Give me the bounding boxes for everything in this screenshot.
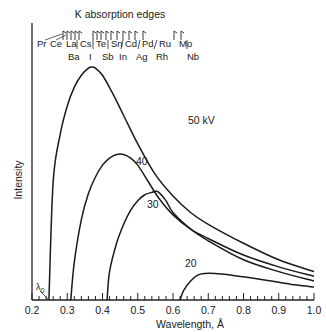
edge-element-label: Sn bbox=[111, 38, 123, 49]
edge-marker bbox=[106, 31, 109, 40]
edge-separator bbox=[138, 40, 140, 49]
curve-20-kv bbox=[180, 273, 314, 300]
edge-element-label: La bbox=[66, 38, 77, 49]
edge-element-label: Cd bbox=[125, 38, 137, 49]
chart-canvas: 0.20.30.40.50.60.70.80.91.0Wavelength, Å… bbox=[0, 0, 326, 332]
curve-label: 20 bbox=[185, 257, 197, 269]
x-tick-label: 0.7 bbox=[201, 304, 216, 316]
x-axis-label: Wavelength, Å bbox=[156, 318, 224, 330]
curves bbox=[49, 67, 314, 300]
edge-element-label: Sb bbox=[102, 51, 114, 62]
x-tick-label: 0.3 bbox=[60, 304, 75, 316]
edge-separator bbox=[154, 40, 157, 49]
edge-element-label: In bbox=[119, 51, 127, 62]
edge-element-label: Ba bbox=[68, 51, 80, 62]
curve-label: 50 kV bbox=[188, 114, 215, 126]
labels: 50 kV403020λ0K absorption edgesPrCeLaCsT… bbox=[36, 8, 215, 299]
y-axis-label: Intensity bbox=[12, 160, 24, 200]
edge-element-label: I bbox=[89, 51, 92, 62]
x-tick-label: 0.4 bbox=[95, 304, 110, 316]
x-tick-label: 0.8 bbox=[236, 304, 251, 316]
edge-element-label: Pd bbox=[142, 38, 154, 49]
curve-label: 30 bbox=[147, 198, 159, 210]
x-ray-spectrum-chart: 0.20.30.40.50.60.70.80.91.0Wavelength, Å… bbox=[0, 0, 326, 332]
edge-element-label: Nb bbox=[187, 51, 199, 62]
edge-element-label: Cs bbox=[80, 38, 92, 49]
x-tick-label: 0.2 bbox=[25, 304, 40, 316]
x-tick-label: 0.5 bbox=[130, 304, 145, 316]
edge-element-label: Rh bbox=[156, 51, 168, 62]
x-tick-label: 1.0 bbox=[307, 304, 322, 316]
edge-element-label: Ru bbox=[159, 38, 171, 49]
edge-element-label: Mo bbox=[179, 38, 192, 49]
edge-element-label: Te bbox=[96, 38, 106, 49]
k-edges-title: K absorption edges bbox=[75, 8, 165, 20]
edge-marker bbox=[174, 31, 177, 40]
edge-element-label: Ag bbox=[136, 51, 148, 62]
curve-40-kv bbox=[71, 154, 314, 300]
x-tick-label: 0.9 bbox=[271, 304, 286, 316]
lambda-min-label: λ0 bbox=[36, 282, 45, 294]
x-tick-label: 0.6 bbox=[166, 304, 181, 316]
curve-label: 40 bbox=[136, 155, 148, 167]
axes: 0.20.30.40.50.60.70.80.91.0Wavelength, Å… bbox=[12, 23, 321, 330]
